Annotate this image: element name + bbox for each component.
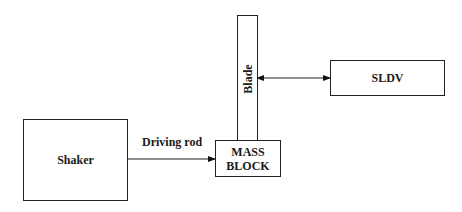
mass-label-line2: BLOCK	[226, 159, 269, 173]
sldv-box: SLDV	[330, 60, 445, 96]
mass-block-box: MASS BLOCK	[215, 140, 281, 177]
driving-rod-label: Driving rod	[142, 135, 202, 150]
shaker-box: Shaker	[23, 119, 128, 201]
blade-box: Blade	[237, 15, 258, 141]
shaker-label: Shaker	[57, 153, 94, 167]
sldv-label: SLDV	[371, 71, 403, 85]
mass-label-line1: MASS	[231, 145, 264, 159]
blade-label: Blade	[241, 64, 255, 93]
